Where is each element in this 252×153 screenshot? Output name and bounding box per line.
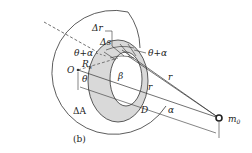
mass-m0 [216,115,222,121]
label-r-upper: r [168,72,173,82]
sphere-outline-top-right [128,12,140,48]
label-theta-alpha-left: θ+α [74,48,93,58]
label-theta: θ [82,74,88,84]
figure-caption: (b) [73,134,86,144]
label-origin: O [67,65,75,75]
label-delta-A: ΔA [73,106,86,116]
label-delta-s: Δs [99,37,111,47]
label-r-lower: r [148,82,153,92]
label-radius: Rs [81,59,92,70]
label-delta-r: Δr [91,23,103,33]
label-beta: β [117,71,123,81]
gravitation-shell-diagram: Δr Δs θ+α θ+α O Rs θ β r r ΔA D α m0 (b) [0,0,252,153]
origin-point [77,69,80,72]
shaded-ring-delta-A [88,40,148,122]
label-theta-alpha-right: θ+α [148,48,167,58]
label-alpha: α [168,105,174,115]
label-mass: m0 [228,114,241,125]
label-D: D [140,105,148,115]
